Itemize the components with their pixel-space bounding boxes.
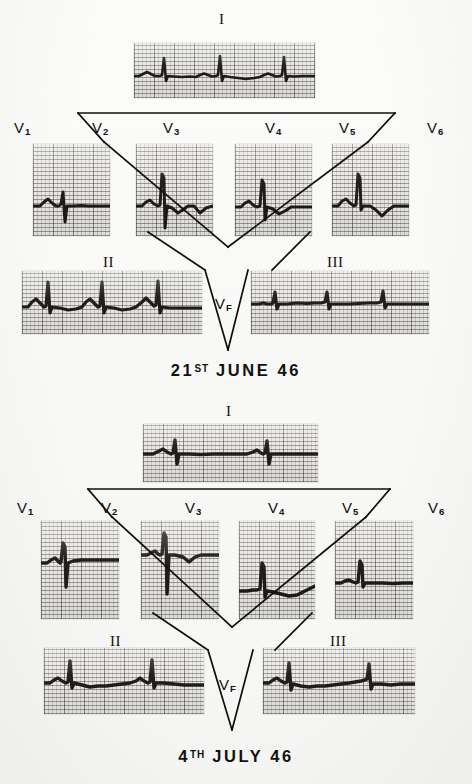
lead-label-II-july: II xyxy=(110,634,121,649)
ecg-strip-V3-june xyxy=(136,144,213,236)
lead-label-V4-july: V4 xyxy=(268,500,285,517)
ecg-strip-I-july xyxy=(143,424,318,482)
ecg-strip-V1-july xyxy=(41,521,119,619)
panel-date-july: 4TH JULY 46 xyxy=(0,748,472,765)
lead-label-V2-june: V2 xyxy=(92,120,109,137)
ecg-paper-shading xyxy=(332,144,409,236)
lead-label-V3-june: V3 xyxy=(163,120,180,137)
lead-label-VF-june: VF xyxy=(215,296,232,313)
ecg-paper-shading xyxy=(251,271,429,334)
lead-label-V3-july: V3 xyxy=(185,500,202,517)
lead-label-V1-july: V1 xyxy=(17,500,34,517)
ecg-paper-shading xyxy=(235,144,312,236)
v5-to-vf-june xyxy=(272,232,310,270)
lead-label-VF-july: VF xyxy=(219,677,236,694)
triangle-right-upper-july xyxy=(366,489,390,517)
ecg-paper-shading xyxy=(33,144,110,236)
ecg-strip-V3-july xyxy=(141,521,219,619)
ecg-paper-shading xyxy=(22,271,202,334)
ecg-strip-V5-july xyxy=(335,521,413,619)
ecg-paper-shading xyxy=(44,648,204,714)
lead-label-I: I xyxy=(219,12,225,27)
lead-label-I-july: I xyxy=(226,404,232,419)
ecg-paper-shading xyxy=(263,648,415,714)
lead-label-II-june: II xyxy=(103,255,114,270)
ecg-strip-II-june xyxy=(22,271,202,334)
lead-label-V6-june: V6 xyxy=(427,120,444,137)
ecg-strip-V4-july xyxy=(239,521,315,619)
ecg-paper-shading xyxy=(141,521,219,619)
lead-label-V5-june: V5 xyxy=(339,120,356,137)
ecg-paper-shading xyxy=(41,521,119,619)
ecg-paper-shading xyxy=(136,144,213,236)
lead-label-V5-july: V5 xyxy=(342,500,359,517)
ecg-strip-V4-june xyxy=(235,144,312,236)
lead-label-V6-july: V6 xyxy=(428,500,445,517)
ecg-paper-shading xyxy=(239,521,315,619)
lead-label-V1-june: V1 xyxy=(14,120,31,137)
lead-label-III-july: III xyxy=(330,634,347,649)
ecg-strip-III-july xyxy=(263,648,415,714)
ecg-strip-V1-june xyxy=(33,144,110,236)
ecg-strip-III-june xyxy=(251,271,429,334)
lead-label-III-june: III xyxy=(327,255,344,270)
ecg-strip-V5-june xyxy=(332,144,409,236)
ecg-paper-shading xyxy=(335,521,413,619)
ecg-strip-II-july xyxy=(44,648,204,714)
ecg-paper-shading xyxy=(143,424,318,482)
ecg-strip-I-june xyxy=(134,43,315,98)
ecg-paper-shading xyxy=(134,43,315,98)
lead-label-V4-june: V4 xyxy=(265,120,282,137)
triangle-right-upper-june xyxy=(368,113,395,142)
ecg-figure-page: I V1 V2 V3 V4 V5 V6 xyxy=(0,0,472,784)
panel-date-june: 21ST JUNE 46 xyxy=(0,362,472,379)
lead-label-V2-july: V2 xyxy=(101,500,118,517)
v3-to-vf-june xyxy=(148,232,205,270)
